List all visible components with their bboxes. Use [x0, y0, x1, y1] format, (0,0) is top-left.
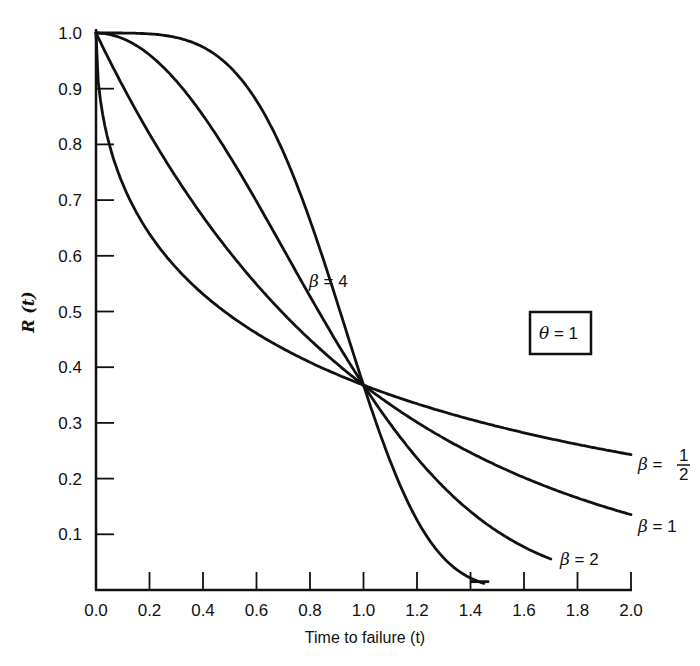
label-beta-half-den: 2: [679, 465, 688, 484]
x-tick-label: 0.0: [84, 601, 108, 620]
y-tick-label: 0.5: [58, 303, 82, 322]
x-tick-label: 0.8: [298, 601, 322, 620]
label-beta-2: β = 2: [559, 549, 599, 569]
y-tick-label: 0.1: [58, 525, 82, 544]
curve-beta-0_5: [96, 33, 631, 455]
curves: [96, 33, 631, 583]
y-axis-title: R (t): [19, 291, 38, 333]
axes: 0.00.20.40.60.81.01.21.41.61.82.00.10.20…: [58, 24, 642, 620]
x-tick-label: 2.0: [619, 601, 643, 620]
label-beta-half: β =: [637, 454, 663, 474]
y-tick-label: 0.6: [58, 247, 82, 266]
x-tick-label: 1.8: [566, 601, 590, 620]
label-beta-half-num: 1: [679, 446, 688, 465]
y-tick-label: 0.3: [58, 414, 82, 433]
label-beta-4-rest: = 4: [319, 272, 348, 291]
x-tick-label: 1.2: [405, 601, 429, 620]
x-tick-label: 0.6: [245, 601, 269, 620]
x-tick-label: 1.6: [512, 601, 536, 620]
x-tick-label: 0.4: [191, 601, 215, 620]
x-tick-label: 0.2: [138, 601, 162, 620]
curve-beta-4: [96, 33, 484, 583]
theta-annotation: θ = 1: [530, 312, 591, 354]
theta-label: θ = 1: [539, 323, 578, 343]
label-beta-1: β = 1: [637, 516, 677, 536]
label-beta-4: β = 4: [308, 271, 348, 291]
reliability-chart: 0.00.20.40.60.81.01.21.41.61.82.00.10.20…: [0, 0, 700, 666]
y-tick-label: 1.0: [58, 24, 82, 43]
x-axis-title: Time to failure (t): [305, 629, 425, 646]
y-tick-label: 0.9: [58, 80, 82, 99]
y-tick-label: 0.8: [58, 135, 82, 154]
x-tick-label: 1.0: [352, 601, 376, 620]
y-tick-label: 0.2: [58, 470, 82, 489]
y-tick-label: 0.7: [58, 191, 82, 210]
x-tick-label: 1.4: [459, 601, 483, 620]
curve-beta-2: [96, 33, 551, 559]
y-tick-label: 0.4: [58, 358, 82, 377]
curve-beta-1: [96, 33, 631, 515]
curve-labels: β = 4 β = 1 2 β = 1 β = 2: [308, 271, 690, 569]
